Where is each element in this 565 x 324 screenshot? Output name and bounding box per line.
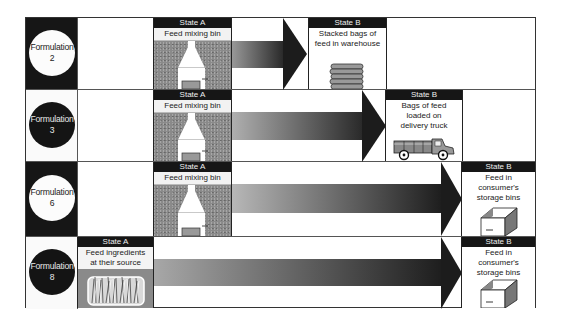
- state-a-label: Feed ingredients at their source: [78, 247, 153, 269]
- mixing-bin-icon: [162, 113, 224, 161]
- state-a-header: State A: [154, 18, 231, 28]
- formulation-number: 3: [50, 125, 55, 136]
- arrow-shaft: [231, 41, 283, 68]
- row-formulation-2: Formulation 2 State A Feed mixing bin: [26, 18, 535, 90]
- arrow-shaft: [231, 184, 441, 213]
- label-line: feed in warehouse: [309, 39, 386, 49]
- label-line: Feed in: [462, 248, 535, 258]
- formulation-cell: Formulation 3: [26, 90, 78, 161]
- label-line: delivery truck: [386, 121, 462, 131]
- process-arrow: [231, 90, 386, 161]
- state-a-header: State A: [154, 162, 231, 172]
- state-b-box: State B Feed in consumer's storage bins: [461, 162, 535, 236]
- state-a-box: State A Feed ingredients at their source: [77, 237, 154, 308]
- row-formulation-3: Formulation 3 State A Feed mixing bin: [26, 90, 535, 162]
- label-line: storage bins: [462, 193, 535, 203]
- label-line: at their source: [78, 258, 153, 268]
- state-a-label: Feed mixing bin: [154, 100, 231, 113]
- state-b-box: State B Stacked bags of feed in warehous…: [308, 18, 387, 89]
- state-b-label: Stacked bags of feed in warehouse: [309, 28, 386, 49]
- state-b-box: State B Bags of feed loaded on delivery …: [385, 90, 463, 161]
- state-a-box: State A Feed mixing bin: [153, 18, 232, 89]
- formulation-cell: Formulation 6: [26, 162, 78, 236]
- formulation-badge: Formulation 2: [29, 30, 75, 76]
- arrow-shaft: [153, 259, 441, 286]
- label-line: consumer's: [462, 183, 535, 193]
- label-line: loaded on: [386, 111, 462, 121]
- label-line: Bags of feed: [386, 101, 462, 111]
- diagram-frame: Formulation 2 State A Feed mixing bin: [25, 17, 536, 308]
- label-line: Feed in: [462, 173, 535, 183]
- row-formulation-6: Formulation 6 State A Feed mixing bin: [26, 162, 535, 237]
- formulation-label: Formulation: [30, 261, 73, 272]
- mixing-bin-icon: [162, 41, 224, 89]
- formulation-badge: Formulation 8: [29, 249, 75, 295]
- state-b-label: Bags of feed loaded on delivery truck: [386, 100, 462, 131]
- storage-bin-icon: [479, 278, 519, 308]
- state-a-label: Feed mixing bin: [154, 172, 231, 185]
- label-line: storage bins: [462, 268, 535, 278]
- stacked-bags-icon: [328, 63, 368, 89]
- formulation-label: Formulation: [30, 114, 73, 125]
- process-arrow: [231, 18, 303, 89]
- formulation-number: 2: [50, 53, 55, 64]
- state-a-box: State A Feed mixing bin: [153, 90, 232, 161]
- grass-field-icon: [86, 271, 146, 307]
- state-b-label: Feed in consumer's storage bins: [462, 247, 535, 278]
- delivery-truck-icon: [392, 135, 456, 161]
- arrow-head: [441, 237, 462, 309]
- state-a-header: State A: [154, 90, 231, 100]
- arrow-head: [362, 90, 386, 162]
- formulation-cell: Formulation 8: [26, 237, 78, 309]
- state-b-label: Feed in consumer's storage bins: [462, 172, 535, 203]
- arrow-head: [441, 162, 462, 236]
- formulation-label: Formulation: [30, 187, 73, 198]
- state-b-header: State B: [309, 18, 386, 28]
- formulation-number: 6: [50, 198, 55, 209]
- formulation-number: 8: [50, 272, 55, 283]
- state-a-header: State A: [78, 237, 153, 247]
- label-line: consumer's: [462, 258, 535, 268]
- state-b-header: State B: [462, 237, 535, 247]
- state-a-box: State A Feed mixing bin: [153, 162, 232, 236]
- mixing-bin-icon: [162, 185, 224, 236]
- arrow-head: [283, 18, 307, 90]
- process-arrow: [153, 237, 462, 308]
- formulation-cell: Formulation 2: [26, 18, 78, 89]
- formulation-label: Formulation: [30, 42, 73, 53]
- formulation-badge: Formulation 3: [29, 102, 75, 148]
- label-line: Stacked bags of: [309, 29, 386, 39]
- state-a-label: Feed mixing bin: [154, 28, 231, 41]
- row-formulation-8: Formulation 8 State A Feed ingredients a…: [26, 237, 535, 309]
- state-b-box: State B Feed in consumer's storage bins: [461, 237, 535, 308]
- process-arrow: [231, 162, 462, 236]
- arrow-shaft: [231, 112, 362, 140]
- state-b-header: State B: [462, 162, 535, 172]
- state-b-header: State B: [386, 90, 462, 100]
- label-line: Feed ingredients: [78, 248, 153, 258]
- formulation-badge: Formulation 6: [29, 175, 75, 221]
- storage-bin-icon: [479, 206, 519, 236]
